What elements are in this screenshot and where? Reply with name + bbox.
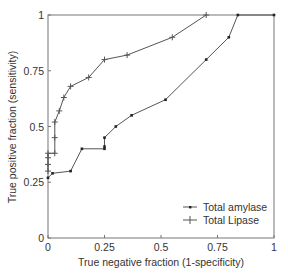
y-tick-label: 0.25	[24, 176, 45, 188]
dot-marker-icon	[103, 148, 106, 151]
dot-marker-icon	[47, 176, 50, 179]
legend-label-lipase: Total Lipase	[203, 214, 259, 226]
x-tick-label: 0	[45, 241, 51, 253]
legend-item-amylase: Total amylase	[183, 201, 267, 213]
y-tick-label: 0.75	[24, 65, 45, 77]
dot-marker-icon	[164, 98, 167, 101]
dot-marker-icon	[103, 145, 106, 148]
series-total-lipase	[45, 12, 209, 174]
dot-marker-icon	[130, 114, 133, 117]
series-total-amylase	[47, 14, 276, 179]
x-tick-label: 0.75	[207, 241, 228, 253]
data-series	[45, 12, 275, 179]
dot-marker-icon	[205, 58, 208, 61]
x-axis-label: True negative fraction (1-specificity)	[78, 256, 244, 268]
dot-marker-icon	[189, 206, 191, 208]
legend-item-lipase: Total Lipase	[183, 214, 259, 226]
legend: Total amylase Total Lipase	[183, 201, 267, 226]
dot-marker-icon	[69, 170, 72, 173]
x-tick-label: 0.5	[154, 241, 169, 253]
dot-marker-icon	[51, 172, 54, 175]
y-tick-label: 1	[38, 9, 44, 21]
dot-marker-icon	[81, 148, 84, 151]
dot-marker-icon	[115, 125, 118, 128]
dot-marker-icon	[103, 136, 106, 139]
dot-marker-icon	[228, 36, 231, 39]
x-tick-label: 0.25	[94, 241, 115, 253]
legend-label-amylase: Total amylase	[203, 201, 267, 213]
roc-chart: 00.250.50.75100.250.50.751 True negative…	[0, 0, 288, 279]
dot-marker-icon	[237, 14, 240, 17]
y-tick-label: 0.5	[29, 121, 44, 133]
x-tick-label: 1	[271, 241, 277, 253]
y-tick-label: 0	[38, 232, 44, 244]
y-axis-label: True positive fraction (sensitivity)	[6, 51, 18, 204]
dot-marker-icon	[273, 14, 276, 17]
